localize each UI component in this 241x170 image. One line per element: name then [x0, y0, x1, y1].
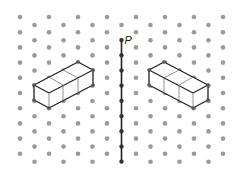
- mirror-line-dot: [120, 84, 124, 88]
- mirror-line-dot: [120, 53, 124, 57]
- vertex-dot: [206, 98, 210, 102]
- left-cuboid: [32, 60, 95, 110]
- mirror-line-dot: [120, 99, 124, 103]
- vertex-dot: [147, 83, 151, 87]
- vertex-dot: [32, 98, 36, 102]
- vertex-dot: [76, 60, 80, 64]
- mirror-line-label: P: [125, 35, 132, 46]
- right-cuboid: [147, 60, 210, 110]
- mirror-line-dot: [120, 68, 124, 72]
- mirror-line-dot: [120, 114, 124, 118]
- vertex-dot: [32, 83, 36, 87]
- mirror-line-dot: [120, 144, 124, 148]
- vertex-dot: [91, 83, 95, 87]
- vertex-dot: [91, 68, 95, 72]
- shapes-layer: [0, 0, 241, 170]
- mirror-line-dot: [120, 38, 124, 42]
- isometric-diagram: P: [0, 0, 241, 170]
- mirror-line-dot: [120, 160, 124, 164]
- vertex-dot: [191, 106, 195, 110]
- vertex-dot: [206, 83, 210, 87]
- mirror-line-dot: [120, 129, 124, 133]
- vertex-dot: [47, 106, 51, 110]
- vertex-dot: [162, 60, 166, 64]
- vertex-dot: [147, 68, 151, 72]
